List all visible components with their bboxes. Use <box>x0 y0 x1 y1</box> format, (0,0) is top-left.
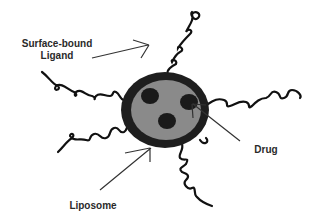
liposome-diagram <box>0 0 325 223</box>
drug-particle <box>141 88 159 104</box>
liposome-core <box>131 80 201 140</box>
ligand-label: Surface-bound Ligand <box>12 38 102 62</box>
ligand-bottom <box>180 144 212 206</box>
ligand-right <box>208 90 301 107</box>
ligand-bottom-right <box>200 138 207 143</box>
ligand-upper-left <box>42 72 124 100</box>
drug-label: Drug <box>248 144 284 156</box>
drug-particle <box>180 94 198 110</box>
liposome-label: Liposome <box>62 200 124 212</box>
ligand-lower-left <box>58 126 130 152</box>
drug-particle <box>158 113 176 129</box>
liposome-arrow <box>100 148 151 190</box>
ligand-top <box>168 12 200 74</box>
